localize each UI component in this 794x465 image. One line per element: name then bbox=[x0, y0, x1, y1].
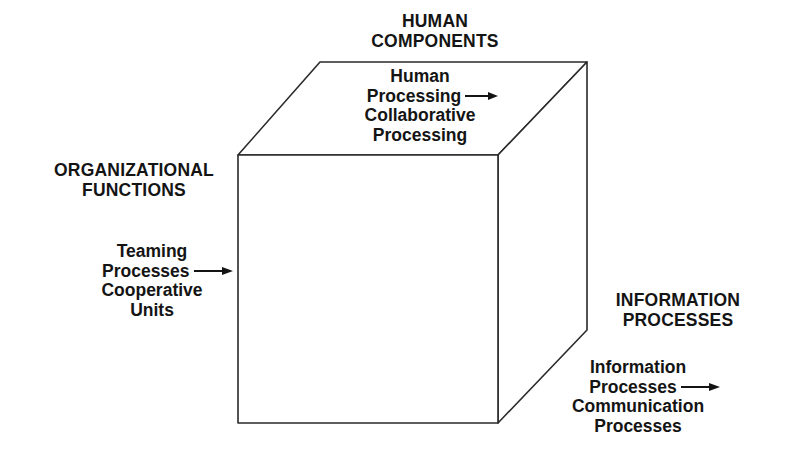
cube-front-face bbox=[238, 155, 498, 423]
heading-line: INFORMATION bbox=[588, 291, 768, 311]
heading-line: COMPONENTS bbox=[355, 32, 515, 52]
organizational-functions-heading: ORGANIZATIONAL FUNCTIONS bbox=[34, 161, 234, 200]
human-components-heading: HUMAN COMPONENTS bbox=[355, 12, 515, 51]
progression-text: Processes bbox=[589, 377, 677, 397]
right-arrow-icon bbox=[465, 91, 499, 101]
progression-text: Processes bbox=[102, 261, 190, 281]
progression-line: Human bbox=[330, 67, 510, 87]
human-components-progression: Human Processing Collaborative Processin… bbox=[330, 67, 510, 145]
heading-line: HUMAN bbox=[355, 12, 515, 32]
progression-line-with-arrow: Processes bbox=[72, 262, 232, 282]
progression-line: Information bbox=[548, 358, 728, 378]
progression-line: Processes bbox=[548, 417, 728, 437]
progression-text: Processing bbox=[367, 86, 461, 106]
heading-line: ORGANIZATIONAL bbox=[34, 161, 234, 181]
information-processes-heading: INFORMATION PROCESSES bbox=[588, 291, 768, 330]
progression-line: Processing bbox=[330, 126, 510, 146]
progression-line: Units bbox=[72, 301, 232, 321]
right-arrow-icon bbox=[194, 266, 234, 276]
heading-line: FUNCTIONS bbox=[34, 181, 234, 201]
progression-line-with-arrow: Processes bbox=[548, 378, 728, 398]
progression-line: Communication bbox=[548, 397, 728, 417]
progression-line: Cooperative bbox=[72, 281, 232, 301]
progression-line: Collaborative bbox=[330, 106, 510, 126]
right-arrow-icon bbox=[681, 382, 721, 392]
organizational-functions-progression: Teaming Processes Cooperative Units bbox=[72, 242, 232, 320]
progression-line: Teaming bbox=[72, 242, 232, 262]
information-processes-progression: Information Processes Communication Proc… bbox=[548, 358, 728, 436]
progression-line-with-arrow: Processing bbox=[330, 87, 510, 107]
heading-line: PROCESSES bbox=[588, 311, 768, 331]
